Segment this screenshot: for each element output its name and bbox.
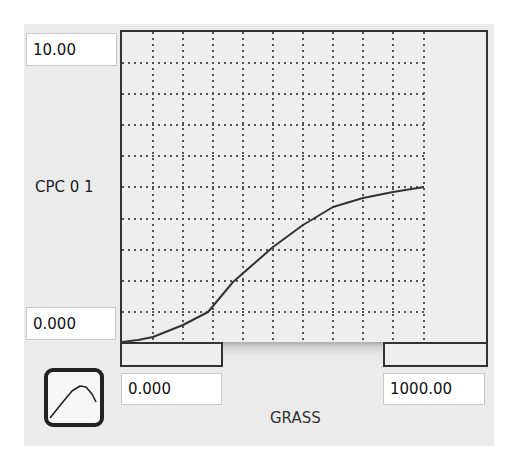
x-range-max-handle[interactable] — [383, 342, 488, 367]
curve-icon — [48, 372, 100, 423]
x-axis-label: GRASS — [270, 409, 321, 427]
y-axis-label: CPC 0 1 — [35, 178, 94, 196]
x-min-input[interactable]: 0.000 — [121, 373, 222, 405]
curve-type-button[interactable] — [44, 368, 104, 427]
response-curve[interactable] — [122, 187, 424, 342]
x-range-min-handle[interactable] — [120, 342, 223, 367]
y-max-input[interactable]: 10.00 — [26, 33, 117, 66]
y-min-input[interactable]: 0.000 — [26, 307, 116, 340]
grid-lines — [122, 32, 424, 343]
curve-graph — [120, 30, 490, 345]
x-range-track[interactable] — [221, 342, 384, 364]
curve-plot-area[interactable] — [120, 30, 488, 343]
x-max-input[interactable]: 1000.00 — [383, 373, 485, 405]
